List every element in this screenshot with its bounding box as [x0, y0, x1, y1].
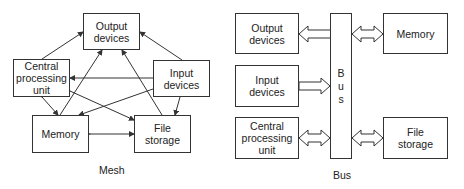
- mesh-file-storage-node: File storage: [134, 115, 191, 153]
- bus-caption: Bus: [333, 169, 351, 181]
- bus-file-storage-node: File storage: [383, 117, 448, 159]
- mesh-input-devices-node: Input devices: [153, 60, 210, 97]
- bus-letter-b: B: [337, 67, 344, 80]
- bus-letter-u: u: [338, 80, 344, 93]
- mesh-caption: Mesh: [99, 164, 125, 176]
- bus-memory-node: Memory: [383, 13, 448, 54]
- mesh-output-devices-node: Output devices: [83, 13, 140, 50]
- mesh-memory-node: Memory: [32, 115, 89, 153]
- mesh-cpu-node: Central processing unit: [13, 59, 70, 97]
- bus-letter-s: s: [338, 93, 343, 106]
- bus-cpu-node: Central processing unit: [235, 117, 299, 159]
- bus-output-devices-node: Output devices: [235, 13, 299, 54]
- bus-input-devices-node: Input devices: [235, 65, 299, 107]
- bus-bar: B u s: [330, 13, 352, 159]
